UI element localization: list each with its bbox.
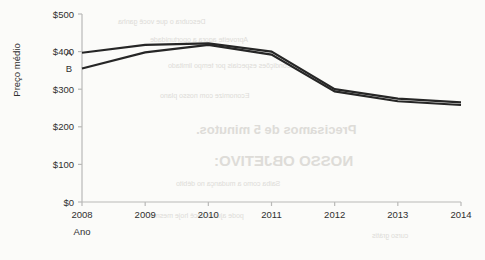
x-tick-label: 2010	[198, 209, 219, 220]
x-tick-label: 2008	[71, 209, 92, 220]
y-tick-label: $200	[53, 121, 74, 132]
x-tick-label: 2011	[261, 209, 281, 220]
y-tick-label: $100	[53, 159, 74, 170]
line-chart: $0$100$200$300$400$500 20082009201020112…	[0, 0, 485, 260]
x-axis-ticks	[82, 202, 461, 206]
x-tick-label: 2014	[450, 209, 471, 220]
series-line-a	[82, 43, 461, 102]
series-label-b: B	[66, 63, 72, 74]
chart-canvas: $0$100$200$300$400$500 20082009201020112…	[0, 0, 485, 260]
y-axis-title: Preço médio	[11, 43, 22, 96]
x-tick-label: 2009	[135, 209, 156, 220]
y-tick-label: $0	[63, 197, 74, 208]
y-axis-tick-labels: $0$100$200$300$400$500	[53, 9, 74, 208]
series-line-b	[82, 45, 461, 105]
y-tick-label: $500	[53, 9, 74, 20]
x-axis-tick-labels: 2008200920102011201220132014	[71, 209, 471, 220]
x-tick-label: 2012	[324, 209, 345, 220]
x-axis-title: Ano	[74, 226, 91, 237]
y-tick-label: $300	[53, 84, 74, 95]
x-tick-label: 2013	[387, 209, 408, 220]
series-inline-labels: AB	[66, 47, 73, 74]
data-series-group	[82, 43, 461, 105]
series-label-a: A	[66, 47, 73, 58]
